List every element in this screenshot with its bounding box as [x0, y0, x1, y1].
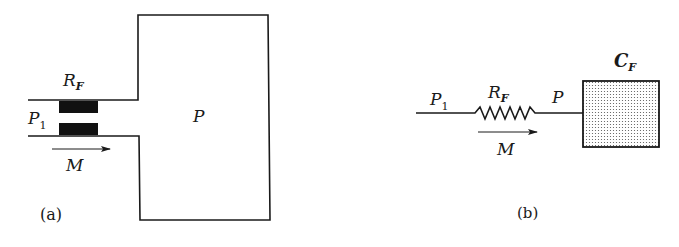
- caption-b: (b): [517, 204, 538, 222]
- inlet-pressure-label-a: P1: [27, 108, 46, 132]
- resistance-label-b: RF: [487, 82, 510, 105]
- chamber-pressure-label: P: [192, 106, 205, 126]
- capacitance-box: [583, 81, 659, 147]
- inlet-pressure-label-b: P1: [429, 89, 448, 113]
- diagram-canvas: RF P1 P M (a) P1 RF P CF M (b): [0, 0, 679, 247]
- panel-b: P1 RF P CF M (b): [416, 50, 659, 222]
- panel-a: RF P1 P M (a): [27, 15, 270, 224]
- restriction-block-bottom: [59, 123, 98, 135]
- capacitance-label: CF: [614, 50, 637, 74]
- restriction-block-top: [59, 101, 98, 113]
- caption-a: (a): [40, 205, 62, 224]
- node-pressure-label: P: [551, 87, 564, 107]
- resistance-label-a: RF: [62, 70, 85, 93]
- mass-flow-label-a: M: [65, 155, 84, 175]
- mass-flow-label-b: M: [496, 139, 515, 159]
- chamber-outline: [28, 15, 270, 220]
